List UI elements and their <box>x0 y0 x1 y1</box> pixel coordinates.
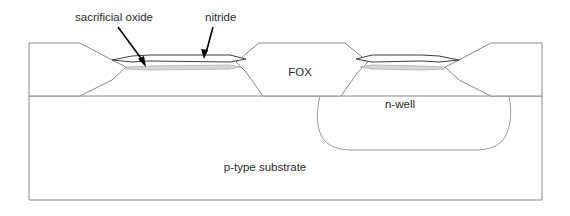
p-type-substrate-label: p-type substrate <box>224 161 306 173</box>
nitride-right-shape <box>356 55 459 62</box>
left-field-oxide-shape <box>29 43 126 96</box>
nitride-arrow-line <box>206 27 213 53</box>
locos-cross-section-figure: sacrificial oxide nitride FOX n-well p-t… <box>0 0 570 216</box>
diagram-canvas: sacrificial oxide nitride FOX n-well p-t… <box>0 0 570 216</box>
nitride-left-shape <box>112 55 246 62</box>
p-type-substrate-shape <box>29 96 542 200</box>
nitride-label: nitride <box>205 11 236 23</box>
nitride-callout <box>201 27 213 59</box>
right-field-oxide-shape <box>445 43 542 96</box>
n-well-label: n-well <box>385 98 415 110</box>
sacrificial-oxide-right-shape <box>360 65 445 70</box>
sacrificial-oxide-label: sacrificial oxide <box>75 11 153 23</box>
sacrificial-oxide-left-shape <box>126 65 241 70</box>
center-fox-label: FOX <box>288 66 312 78</box>
